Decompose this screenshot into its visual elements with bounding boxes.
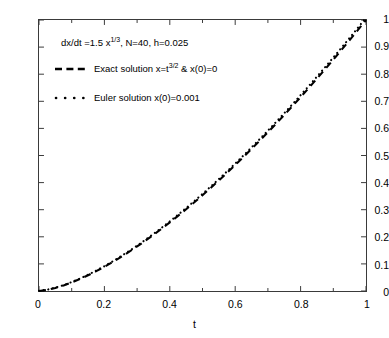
series-euler-solution bbox=[39, 18, 366, 291]
y-tick-label: 0.2 bbox=[355, 232, 389, 243]
legend-exact-exponent: 3/2 bbox=[169, 62, 179, 69]
y-tick-label: 0.6 bbox=[355, 123, 389, 134]
series-exact-solution bbox=[39, 20, 366, 291]
y-tick-label: 0.1 bbox=[355, 259, 389, 270]
legend-label-exact: Exact solution x=t3/2 & x(0)=0 bbox=[94, 63, 217, 74]
y-tick-label: 0.9 bbox=[355, 41, 389, 52]
x-tick-label: 0.4 bbox=[162, 299, 177, 310]
y-tick-label: 0.4 bbox=[355, 178, 389, 189]
equation-suffix: , N=40, h=0.025 bbox=[120, 37, 188, 48]
figure-canvas: dx/dt =1.5 x1/3, N=40, h=0.025 Exact sol… bbox=[0, 0, 389, 338]
equation-exponent: 1/3 bbox=[110, 36, 120, 43]
y-tick-label: 0.5 bbox=[355, 150, 389, 161]
equation-annotation: dx/dt =1.5 x1/3, N=40, h=0.025 bbox=[61, 37, 188, 48]
y-tick-label: 0.8 bbox=[355, 68, 389, 79]
legend-label-euler: Euler solution x(0)=0.001 bbox=[94, 92, 200, 103]
legend-item-exact: Exact solution x=t3/2 & x(0)=0 bbox=[54, 63, 217, 74]
equation-prefix: dx/dt =1.5 x bbox=[61, 37, 110, 48]
legend-exact-prefix: Exact solution x=t bbox=[94, 63, 169, 74]
y-tick-label: 0 bbox=[355, 287, 389, 298]
x-axis-label: t bbox=[0, 318, 389, 330]
curve-layer bbox=[39, 20, 366, 291]
legend-exact-suffix: & x(0)=0 bbox=[178, 63, 217, 74]
y-tick-label: 0.7 bbox=[355, 96, 389, 107]
tick-marks bbox=[39, 20, 366, 291]
x-tick-label: 0 bbox=[35, 299, 41, 310]
x-tick-label: 1 bbox=[364, 299, 370, 310]
legend-dotted-line-icon bbox=[54, 93, 88, 103]
legend-dashed-line-icon bbox=[54, 64, 88, 74]
y-tick-label: 1 bbox=[355, 14, 389, 25]
x-tick-label: 0.2 bbox=[96, 299, 111, 310]
legend-item-euler: Euler solution x(0)=0.001 bbox=[54, 92, 200, 103]
x-tick-label: 0.8 bbox=[294, 299, 309, 310]
plot-area: dx/dt =1.5 x1/3, N=40, h=0.025 Exact sol… bbox=[38, 19, 367, 292]
y-tick-label: 0.3 bbox=[355, 205, 389, 216]
x-tick-label: 0.6 bbox=[228, 299, 243, 310]
